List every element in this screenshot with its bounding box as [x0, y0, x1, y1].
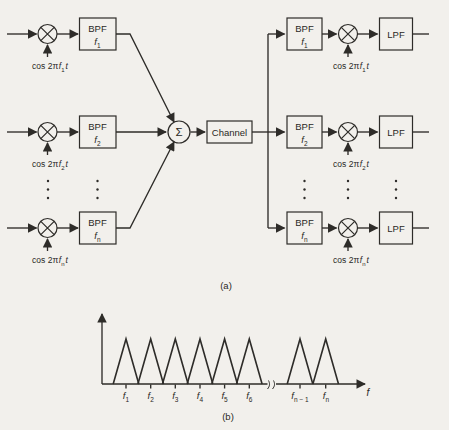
rx-row-1: BPF f1 LPF cos 2πf1t: [268, 18, 429, 73]
tick-label-f5: f5: [221, 390, 228, 403]
mixer-icon: [339, 219, 358, 238]
bpf-freq-label: f2: [301, 134, 308, 147]
tick-label-fn-1: fn − 1: [291, 390, 309, 403]
rx-ellipsis-dots: [303, 180, 397, 199]
tx-row-1: BPF f1 cos 2πf1t: [7, 18, 174, 122]
spectrum-plot: f1 f2 f3 f4 f5 f6 fn − 1 fn f: [102, 314, 371, 403]
tick-label-fn: fn: [323, 390, 330, 403]
x-axis-label: f: [367, 387, 371, 398]
lpf-label: LPF: [387, 29, 405, 40]
tx-ellipsis-dots: [47, 180, 99, 199]
carrier-label: cos 2πf2t: [32, 159, 68, 171]
summer-sigma: Σ: [175, 126, 182, 138]
spectrum-triangle-n-1: [287, 339, 313, 384]
tick-label-f6: f6: [246, 390, 253, 403]
bpf-label: BPF: [88, 217, 107, 228]
caption-a: (a): [220, 280, 232, 291]
bpf-freq-label: f1: [94, 36, 101, 49]
tick-label-f4: f4: [197, 390, 204, 403]
fdm-diagram-svg: BPF f1 cos 2πf1t BPF f2 cos 2πf2t BPF fn…: [0, 0, 449, 430]
mixer-icon: [339, 123, 358, 142]
spectrum-triangle-3: [163, 339, 189, 384]
bpf-to-summer-wire: [116, 142, 174, 228]
carrier-label: cos 2πf1t: [333, 61, 369, 73]
channel-block: Channel: [207, 34, 268, 228]
axis-ticks: [126, 385, 326, 389]
bpf-freq-label: f2: [94, 134, 101, 147]
spectrum-triangle-6: [237, 339, 263, 384]
tx-row-2: BPF f2 cos 2πf2t: [7, 116, 166, 171]
spectrum-triangle-1: [113, 339, 139, 384]
bpf-label: BPF: [88, 121, 107, 132]
bpf-freq-label: fn: [94, 230, 101, 243]
bpf-label: BPF: [88, 23, 107, 34]
lpf-label: LPF: [387, 127, 405, 138]
bpf-label: BPF: [295, 23, 314, 34]
carrier-label: cos 2πfnt: [333, 255, 369, 267]
carrier-label: cos 2πfnt: [32, 255, 68, 267]
channel-label: Channel: [212, 127, 247, 138]
bpf-label: BPF: [295, 217, 314, 228]
bpf-freq-label: fn: [301, 230, 308, 243]
summer-node: Σ: [168, 121, 205, 143]
tick-label-f1: f1: [123, 390, 130, 403]
tick-label-f2: f2: [148, 390, 155, 403]
mixer-icon: [38, 123, 57, 142]
carrier-label: cos 2πf2t: [333, 159, 369, 171]
rx-row-n: BPF fn LPF cos 2πfnt: [268, 212, 429, 267]
mixer-icon: [339, 25, 358, 44]
bpf-freq-label: f1: [301, 36, 308, 49]
mixer-icon: [38, 219, 57, 238]
fdm-figure: BPF f1 cos 2πf1t BPF f2 cos 2πf2t BPF fn…: [0, 0, 449, 430]
spectrum-triangle-n: [313, 339, 339, 384]
rx-row-2: BPF f2 LPF cos 2πf2t: [268, 116, 429, 171]
lpf-label: LPF: [387, 223, 405, 234]
spectrum-triangle-2: [138, 339, 164, 384]
bpf-label: BPF: [295, 121, 314, 132]
spectrum-triangle-4: [187, 339, 213, 384]
bpf-to-summer-wire: [116, 34, 174, 122]
tick-label-f3: f3: [172, 390, 179, 403]
spectrum-triangle-5: [212, 339, 238, 384]
caption-b: (b): [222, 411, 234, 422]
mixer-icon: [38, 25, 57, 44]
carrier-label: cos 2πf1t: [32, 61, 68, 73]
